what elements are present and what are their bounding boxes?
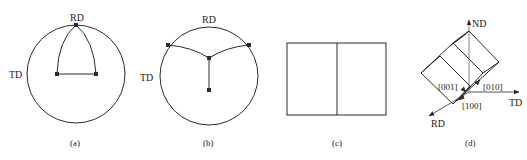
panel-c bbox=[287, 43, 386, 115]
caption-a: (a) bbox=[70, 138, 80, 148]
caption-c: (c) bbox=[332, 138, 342, 148]
label-010: [010] bbox=[483, 82, 503, 92]
label-td-a: TD bbox=[9, 69, 22, 80]
panel-b bbox=[160, 27, 258, 125]
cube-edge bbox=[453, 31, 469, 43]
caption-b: (b) bbox=[203, 138, 214, 148]
arc-left bbox=[168, 45, 209, 58]
label-rd-d: RD bbox=[431, 118, 445, 129]
point-left bbox=[166, 43, 170, 47]
point-center bbox=[207, 56, 211, 60]
direction-001-arrow bbox=[462, 88, 466, 92]
point-right bbox=[247, 43, 251, 47]
point-left bbox=[55, 72, 59, 76]
label-td-b: TD bbox=[140, 72, 153, 83]
cube-edge bbox=[450, 34, 466, 46]
panel-a bbox=[27, 23, 125, 123]
cube-edge bbox=[421, 56, 440, 73]
label-001: [001] bbox=[438, 82, 458, 92]
point-rd bbox=[74, 23, 78, 27]
label-rd-a: RD bbox=[70, 12, 84, 23]
caption-d: (d) bbox=[465, 138, 476, 148]
point-right bbox=[94, 72, 98, 76]
label-nd: ND bbox=[472, 18, 486, 29]
cube-edge bbox=[483, 62, 499, 73]
point-bottom bbox=[207, 88, 211, 92]
cube-edge bbox=[453, 43, 483, 73]
label-td-d: TD bbox=[509, 97, 522, 108]
label-100: [100] bbox=[462, 101, 482, 111]
cube-outline bbox=[421, 31, 499, 104]
label-rd-b: RD bbox=[202, 14, 216, 25]
arc-left bbox=[57, 25, 76, 74]
arc-right bbox=[76, 25, 96, 74]
figure: RD TD (a) RD TD (b) (c) bbox=[0, 0, 527, 160]
arc-right bbox=[209, 45, 249, 58]
